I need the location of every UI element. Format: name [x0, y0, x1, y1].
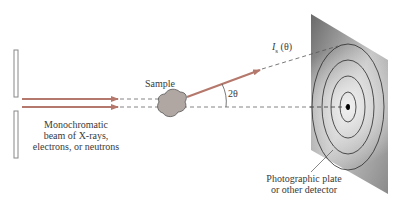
angle-arc — [222, 84, 226, 107]
incident-beam — [22, 99, 160, 107]
beam-label-line-3: electrons, or neutrons — [20, 141, 132, 152]
beam-label-line-2: beam of X-rays, — [20, 130, 132, 141]
beam-label: Monochromatic beam of X-rays, electrons,… — [20, 119, 132, 152]
angle-label: 2θ — [228, 88, 238, 99]
beam-label-line-1: Monochromatic — [20, 119, 132, 130]
center-spot — [346, 104, 350, 110]
sample-blob — [158, 89, 187, 116]
collimator-slit — [14, 50, 18, 158]
detector-label-line-1: Photographic plate — [248, 173, 360, 184]
sample-label: Sample — [145, 78, 175, 89]
detector-plate — [311, 14, 388, 194]
detector-label-line-2: or other detector — [248, 184, 360, 195]
intensity-label: Is (θ) — [272, 41, 292, 57]
detector-label: Photographic plate or other detector — [248, 173, 360, 195]
intensity-argument: (θ) — [278, 41, 292, 52]
